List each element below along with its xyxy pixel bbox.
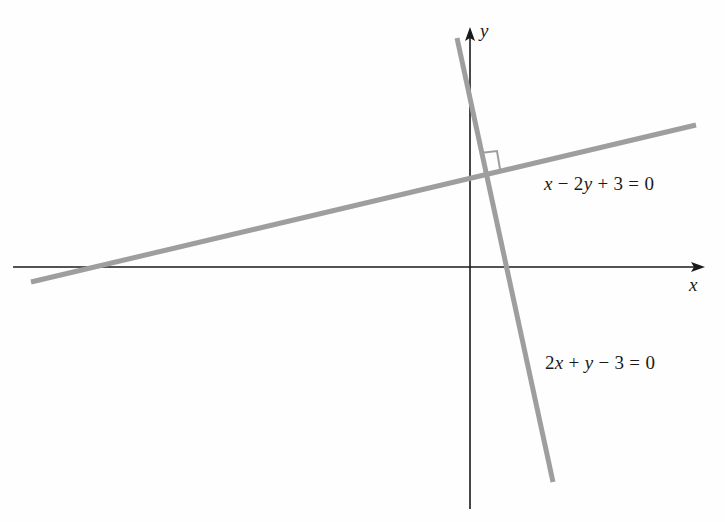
- eq1-part: − 2: [553, 173, 584, 194]
- equation-label-line-1: x − 2y + 3 = 0: [544, 173, 654, 195]
- eq2-var-x: x: [555, 352, 564, 373]
- eq2-part: − 3 = 0: [593, 352, 655, 373]
- equation-label-line-2: 2x + y − 3 = 0: [545, 352, 655, 374]
- eq2-part: 2: [545, 352, 555, 373]
- line-x-minus-2y-plus-3: [31, 125, 696, 282]
- line-2x-plus-y-minus-3: [457, 38, 553, 482]
- eq1-var-x: x: [544, 173, 553, 194]
- eq2-part: +: [564, 352, 585, 373]
- eq1-part: + 3 = 0: [592, 173, 654, 194]
- diagram-canvas: [0, 0, 725, 522]
- perpendicular-lines-diagram: y x x − 2y + 3 = 0 2x + y − 3 = 0: [0, 0, 725, 522]
- y-axis-label: y: [480, 20, 488, 42]
- x-axis-label: x: [689, 274, 697, 296]
